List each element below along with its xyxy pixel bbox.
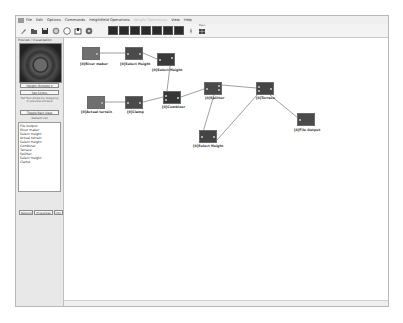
toggle-rain-view-button[interactable]: Toggle Rain View — [20, 110, 59, 115]
app-icon[interactable] — [18, 18, 24, 23]
settings-icon — [85, 27, 93, 35]
node-river-maker[interactable] — [82, 47, 100, 60]
node-select-height-3[interactable] — [199, 130, 217, 143]
sphere-icon — [52, 27, 60, 35]
input-port[interactable] — [201, 136, 203, 138]
grid-icon — [198, 27, 206, 35]
input-port[interactable] — [165, 99, 167, 101]
node-label: [0]Select Height — [120, 62, 150, 66]
left-panel: Preview / Visualization Height (Simple) … — [16, 38, 64, 306]
input-port[interactable] — [299, 119, 301, 121]
menu-help[interactable]: Help — [184, 18, 192, 22]
output-port[interactable] — [96, 53, 98, 55]
export-icon — [74, 27, 82, 35]
circle-button[interactable] — [63, 27, 71, 35]
input-port[interactable] — [127, 102, 129, 104]
output-port[interactable] — [218, 85, 220, 87]
menu-weight-operations[interactable]: Weight Operations — [134, 18, 167, 22]
menu-commands[interactable]: Commands — [65, 18, 85, 22]
rebuild-button[interactable]: Rebuild — [19, 210, 33, 215]
node-label: [0]Select Height — [193, 144, 223, 148]
terrain-generator-button-3[interactable] — [130, 26, 140, 35]
save-button[interactable] — [41, 27, 49, 35]
node-label: [0]River maker — [80, 62, 108, 66]
set-colors-button[interactable]: Set Colors — [20, 90, 59, 95]
node-list[interactable]: File Output River maker Select Height Ac… — [18, 122, 61, 192]
input-port[interactable] — [159, 59, 161, 61]
panel-bottom-buttons: Rebuild Properties Info — [19, 210, 64, 215]
node-label: [0]Actual terrain — [81, 110, 112, 114]
output-port[interactable] — [218, 89, 220, 91]
terrain-preview[interactable] — [19, 43, 62, 83]
dropdown-value: Height (Simple) — [27, 84, 50, 88]
terrain-generator-button-6[interactable] — [163, 26, 173, 35]
circle-icon — [63, 27, 71, 35]
terrain-generator-button-7[interactable] — [174, 26, 184, 35]
sun-angle-note: Set Sun Angle by dragging in preview win… — [20, 97, 59, 103]
menu-heightfield-operations[interactable]: Heightfield Operations — [89, 18, 130, 22]
terrain-generator-button-4[interactable] — [141, 26, 151, 35]
menu-options[interactable]: Options — [47, 18, 61, 22]
output-port[interactable] — [213, 136, 215, 138]
chevron-down-icon: ▾ — [51, 84, 53, 88]
base-label: Base — [199, 24, 205, 27]
node-label: [0]Terrace — [256, 96, 275, 100]
status-bar — [64, 300, 388, 306]
default-list-label: Default List — [20, 117, 59, 120]
node-actual-terrain[interactable] — [87, 96, 105, 109]
menu-file[interactable]: File — [26, 18, 32, 22]
properties-button[interactable]: Properties — [34, 210, 52, 215]
node-select-height-2[interactable] — [157, 53, 175, 66]
node-select-height-1[interactable] — [125, 47, 143, 60]
node-clamp[interactable] — [125, 96, 143, 109]
output-port[interactable] — [171, 57, 173, 59]
node-terrace[interactable] — [256, 82, 274, 95]
node-label: [0]File Output — [294, 128, 320, 132]
node-graph-canvas[interactable] — [64, 38, 388, 306]
terrain-generator-button-1[interactable] — [108, 26, 118, 35]
save-icon — [41, 27, 49, 35]
input-port[interactable] — [258, 86, 260, 88]
panel-title: Preview / Visualization — [18, 38, 52, 42]
node-combiner[interactable] — [163, 91, 181, 104]
open-folder-icon — [30, 27, 38, 35]
input-port[interactable] — [165, 95, 167, 97]
output-port[interactable] — [101, 102, 103, 104]
base-button[interactable]: Base — [198, 27, 206, 35]
info-button[interactable]: Info — [54, 210, 63, 215]
menu-edit[interactable]: Edit — [36, 18, 43, 22]
node-file-output[interactable] — [297, 113, 315, 126]
node-label: [0]Clamp — [127, 110, 144, 114]
pin-button[interactable] — [187, 27, 195, 35]
new-icon — [19, 27, 27, 35]
output-port[interactable] — [139, 53, 141, 55]
output-port[interactable] — [139, 102, 141, 104]
toolbar: Base — [16, 24, 388, 38]
node-label: [0]Combiner — [162, 105, 185, 109]
export-button[interactable] — [74, 27, 82, 35]
input-port[interactable] — [206, 88, 208, 90]
menu-view[interactable]: View — [171, 18, 180, 22]
node-label: [0]Splitter — [205, 96, 224, 100]
sphere-button[interactable] — [52, 27, 60, 35]
open-button[interactable] — [30, 27, 38, 35]
terrain-generator-button-2[interactable] — [119, 26, 129, 35]
height-view-dropdown[interactable]: Height (Simple) ▾ — [20, 83, 59, 88]
input-port[interactable] — [258, 90, 260, 92]
pin-icon — [187, 27, 195, 35]
node-splitter[interactable] — [204, 82, 222, 95]
settings-button[interactable] — [85, 27, 93, 35]
node-label: [0]Select Height — [152, 68, 182, 72]
list-item[interactable]: Clamp — [20, 160, 59, 164]
new-button[interactable] — [19, 27, 27, 35]
input-port[interactable] — [127, 53, 129, 55]
terrain-generator-button-5[interactable] — [152, 26, 162, 35]
app-window: File Edit Options Commands Heightfield O… — [15, 15, 389, 307]
output-port[interactable] — [270, 88, 272, 90]
output-port[interactable] — [177, 97, 179, 99]
